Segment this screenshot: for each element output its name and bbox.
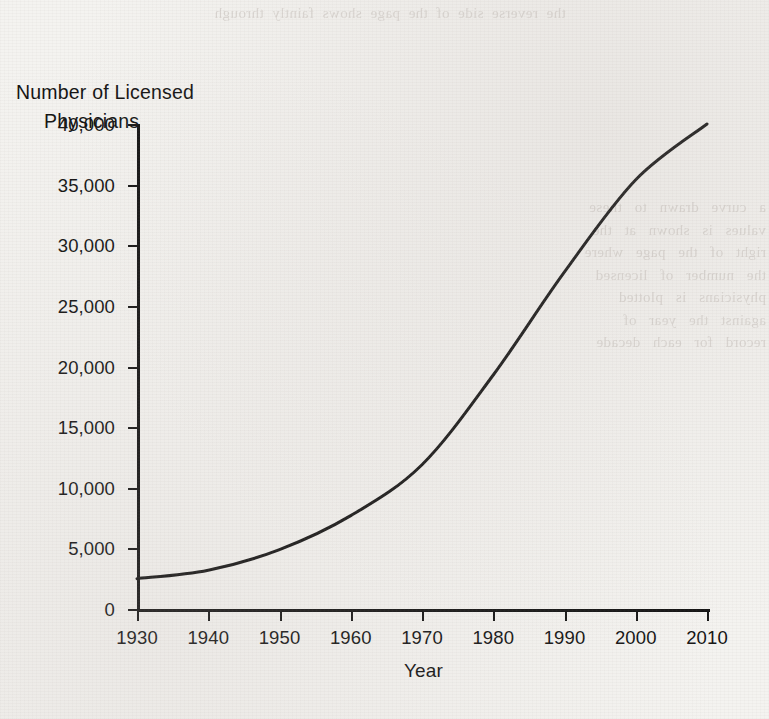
x-tick-1930 xyxy=(137,609,139,621)
line-chart: Number of Licensed Physicians 05,00010,0… xyxy=(0,0,769,719)
plot-area: 05,00010,00015,00020,00025,00030,00035,0… xyxy=(137,124,707,609)
y-tick-label-25000: 25,000 xyxy=(58,296,115,318)
x-tick-1950 xyxy=(280,609,282,621)
y-tick-label-30000: 30,000 xyxy=(58,235,115,257)
y-tick-label-5000: 5,000 xyxy=(68,538,115,560)
y-axis-title-line-1: Number of Licensed xyxy=(16,81,194,103)
x-tick-1990 xyxy=(565,609,567,621)
x-tick-2010 xyxy=(707,609,709,621)
x-tick-label-1930: 1930 xyxy=(116,627,158,649)
y-tick-label-15000: 15,000 xyxy=(58,417,115,439)
x-axis-title: Year xyxy=(137,660,710,682)
x-tick-1970 xyxy=(422,609,424,621)
x-tick-label-1980: 1980 xyxy=(472,627,514,649)
x-tick-label-1940: 1940 xyxy=(187,627,229,649)
y-tick-label-10000: 10,000 xyxy=(58,478,115,500)
x-tick-label-2000: 2000 xyxy=(615,627,657,649)
series-line-path xyxy=(137,124,707,579)
x-tick-1940 xyxy=(208,609,210,621)
x-tick-1980 xyxy=(493,609,495,621)
y-tick-label-35000: 35,000 xyxy=(58,175,115,197)
x-tick-label-1950: 1950 xyxy=(259,627,301,649)
x-tick-label-1960: 1960 xyxy=(330,627,372,649)
x-tick-label-1970: 1970 xyxy=(401,627,443,649)
x-tick-label-2010: 2010 xyxy=(686,627,728,649)
y-tick-label-20000: 20,000 xyxy=(58,357,115,379)
y-tick-label-0: 0 xyxy=(105,599,115,621)
x-tick-1960 xyxy=(351,609,353,621)
x-tick-label-1990: 1990 xyxy=(544,627,586,649)
x-tick-2000 xyxy=(636,609,638,621)
y-tick-label-40000: 40,000 xyxy=(58,114,115,136)
data-series-physicians xyxy=(137,124,707,609)
